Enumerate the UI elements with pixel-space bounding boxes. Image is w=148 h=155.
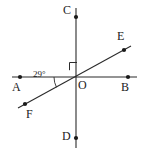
point-label-o: O bbox=[78, 79, 87, 91]
figure-canvas bbox=[0, 0, 148, 155]
point-dot-f bbox=[23, 102, 27, 106]
geometry-figure: C E A B O F D 29° bbox=[0, 0, 148, 155]
point-dot-a bbox=[18, 75, 22, 79]
point-label-c: C bbox=[63, 4, 71, 16]
point-dot-e bbox=[122, 48, 126, 52]
point-dot-b bbox=[126, 75, 130, 79]
point-label-b: B bbox=[121, 81, 129, 93]
point-label-f: F bbox=[26, 108, 33, 120]
point-label-d: D bbox=[62, 130, 71, 142]
angle-arc-aof bbox=[54, 77, 57, 87]
angle-label-aof: 29° bbox=[33, 70, 46, 79]
point-dot-d bbox=[74, 136, 78, 140]
point-dot-c bbox=[74, 15, 78, 19]
point-label-e: E bbox=[117, 30, 124, 42]
point-label-a: A bbox=[12, 81, 21, 93]
